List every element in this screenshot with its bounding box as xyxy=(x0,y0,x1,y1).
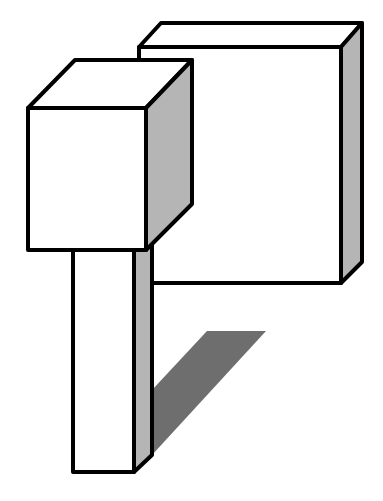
pillar-front-face xyxy=(73,250,134,472)
cube-front-face xyxy=(28,108,146,250)
back-panel-side-face xyxy=(341,23,362,283)
pillar xyxy=(73,232,152,472)
block-diagram xyxy=(0,0,383,501)
cube xyxy=(28,60,192,250)
back-panel-top-face xyxy=(139,23,362,47)
pillar-side-face xyxy=(134,232,152,472)
cast-shadow xyxy=(152,331,266,455)
